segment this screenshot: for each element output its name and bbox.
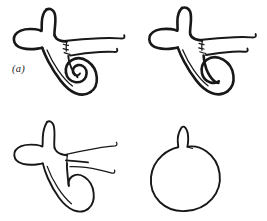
panel-c-drawing [0, 110, 133, 220]
figure-panel-a: (a) [0, 0, 133, 110]
panel-b-drawing [133, 0, 266, 110]
figure-container: (a) (b) [0, 0, 267, 221]
panel-a-drawing [0, 0, 133, 110]
panel-label-a: (a) [12, 64, 25, 75]
panel-d-drawing [133, 110, 266, 220]
figure-panel-d: (d) [133, 110, 266, 220]
figure-panel-b: (b) [133, 0, 266, 110]
figure-panel-c: (c) [0, 110, 133, 220]
